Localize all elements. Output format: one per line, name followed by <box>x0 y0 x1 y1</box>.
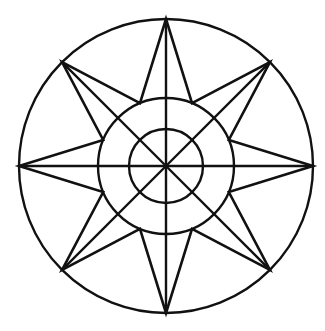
compass-rose-diagram <box>0 0 325 331</box>
figure-root <box>0 0 325 331</box>
